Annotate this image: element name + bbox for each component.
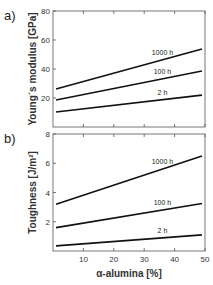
y-axis-title: Young´s modulus [GPa] bbox=[27, 12, 38, 125]
y-tick-label: 60 bbox=[41, 36, 50, 45]
series-label: 2 h bbox=[158, 227, 168, 234]
panel-label: a) bbox=[4, 8, 16, 23]
x-tick-label: 10 bbox=[79, 255, 88, 264]
y-tick-label: 40 bbox=[41, 65, 50, 74]
chart-figure: a)20406080Young´s modulus [GPa]1000 h100… bbox=[0, 0, 213, 285]
series-label: 2 h bbox=[158, 89, 168, 96]
x-tick-label: 50 bbox=[201, 255, 210, 264]
y-tick-label: 8 bbox=[46, 130, 51, 139]
series-line bbox=[56, 49, 202, 89]
series-line bbox=[56, 235, 202, 246]
series-line bbox=[56, 156, 202, 204]
series-label: 1000 h bbox=[152, 49, 174, 56]
series-line bbox=[56, 71, 202, 100]
x-tick-label: 30 bbox=[140, 255, 149, 264]
plot-frame bbox=[53, 134, 205, 251]
y-axis-title: Toughness [J/m²] bbox=[27, 151, 38, 234]
series-line bbox=[56, 95, 202, 112]
series-label: 100 h bbox=[154, 199, 172, 206]
x-tick-label: 20 bbox=[109, 255, 118, 264]
y-tick-label: 2 bbox=[46, 218, 51, 227]
panel-label: b) bbox=[4, 131, 16, 146]
x-axis-title: α-alumina [%] bbox=[96, 268, 162, 279]
x-tick-label: 40 bbox=[170, 255, 179, 264]
series-label: 100 h bbox=[154, 68, 172, 75]
series-line bbox=[56, 203, 202, 227]
y-tick-label: 80 bbox=[41, 7, 50, 16]
series-label: 1000 h bbox=[152, 158, 174, 165]
y-tick-label: 20 bbox=[41, 94, 50, 103]
y-tick-label: 6 bbox=[46, 159, 51, 168]
y-tick-label: 4 bbox=[46, 189, 51, 198]
